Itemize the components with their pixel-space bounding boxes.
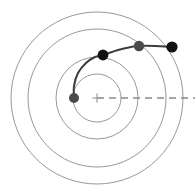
figure-container bbox=[0, 0, 195, 196]
trajectory-curve bbox=[74, 46, 172, 98]
trajectory-marker-dot bbox=[98, 50, 109, 61]
orbit-diagram bbox=[0, 0, 195, 196]
center-cross-marker bbox=[93, 94, 102, 103]
trajectory-marker-dot bbox=[166, 41, 177, 52]
trajectory-marker-dot bbox=[69, 93, 79, 103]
trajectory-marker-dot bbox=[134, 41, 144, 51]
